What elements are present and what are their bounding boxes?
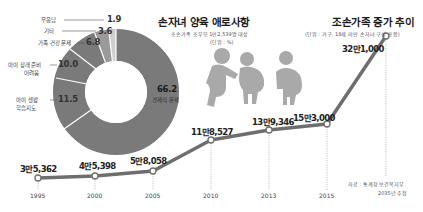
donut-chart — [50, 20, 163, 139]
label-noresp: 무응답 — [41, 16, 56, 24]
year-1995: 1995 — [30, 192, 45, 199]
value-etc: 3.6 — [98, 26, 112, 36]
label-econ: 경제적 문제 — [152, 96, 179, 104]
value-noresp: 1.9 — [107, 14, 121, 24]
label-health: 가족 건강 문제 — [38, 39, 72, 47]
label-future-2: 어려움 — [24, 69, 39, 77]
source-note: 자료 : 통계청 보건복지부 — [348, 180, 404, 187]
line-subtitle: (단위 : 가구, 18세 미만 손자녀 구성 포함) — [305, 30, 400, 37]
point-label-2005: 5만8,058 — [130, 154, 167, 166]
value-future: 10.0 — [58, 59, 78, 69]
label-etc: 기타 — [44, 27, 54, 35]
donut-subtitle: 조손가족 조부모 1만2,539명 대상 — [171, 30, 248, 37]
point-label-2013: 13만9,346 — [252, 115, 294, 127]
point-label-1995: 3만5,362 — [20, 162, 57, 174]
label-future-1: 아이 장래 준비 — [8, 61, 42, 69]
line-title: 조손가족 증가 추이 — [332, 14, 414, 29]
point-label-2015: 15만3,000 — [293, 111, 335, 123]
estimate-note: 2035년 추정 — [378, 189, 407, 196]
grandparent-children-icon — [206, 48, 302, 107]
value-health: 6.8 — [86, 37, 100, 47]
year-2015: 2015 — [319, 192, 334, 199]
point-label-2035: 32만1,000 — [342, 42, 384, 54]
year-2000: 2000 — [87, 192, 102, 199]
value-study: 11.5 — [58, 94, 78, 104]
donut-unit: (단위 : %) — [210, 38, 234, 45]
value-econ: 66.2 — [157, 84, 177, 94]
year-2013: 2013 — [261, 192, 276, 199]
label-study-2: 학습지도 — [16, 104, 36, 112]
year-2010: 2010 — [203, 192, 218, 199]
donut-title: 손자녀 양육 애로사항 — [158, 14, 250, 29]
point-label-2000: 4만5,398 — [79, 159, 116, 171]
point-label-2010: 11만8,527 — [191, 125, 233, 137]
year-2005: 2005 — [145, 192, 160, 199]
label-study-1: 아이 생활 — [16, 96, 38, 104]
